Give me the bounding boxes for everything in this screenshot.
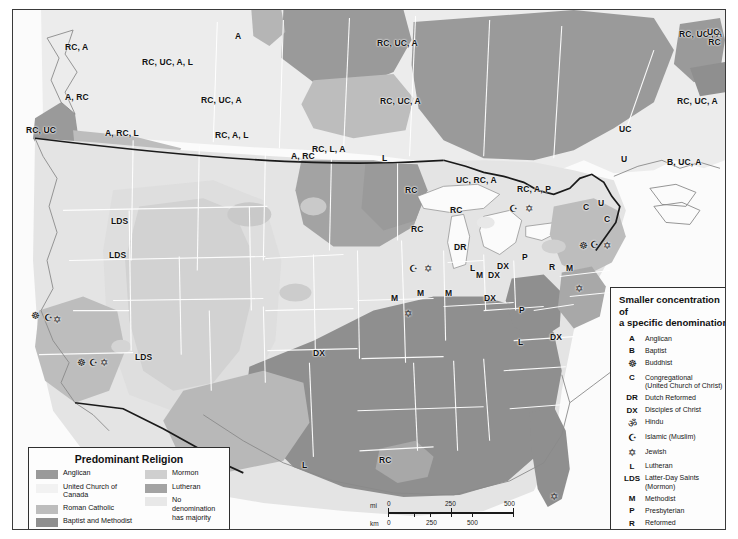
map-label: RC, UC, A <box>377 39 418 49</box>
map-label-line: RC, UC, A <box>201 96 242 106</box>
map-label-line: P <box>522 253 528 263</box>
map-label: RC, A <box>65 43 88 53</box>
denomination-abbreviation: R <box>619 519 645 529</box>
legend-denomination-item: ☸Buddhist <box>619 358 726 371</box>
denomination-abbreviation: A <box>619 334 645 344</box>
denomination-name: Buddhist <box>645 358 672 367</box>
legend-denomination-item: RReformed <box>619 519 726 529</box>
map-label: M <box>476 271 483 281</box>
denomination-name-line: Hindu <box>645 418 663 427</box>
map-label: C <box>583 203 589 213</box>
denomination-name: Anglican <box>645 334 672 343</box>
map-label: M <box>566 264 573 274</box>
map-label-line: DX <box>550 333 562 343</box>
legend-swatch-label-line: Mormon <box>172 469 198 478</box>
map-label-line: A, RC, L <box>105 129 139 139</box>
map-religion-symbol: ☸ <box>31 311 40 321</box>
map-label: L <box>470 264 475 274</box>
legend-denomination-item: ✡Jewish <box>619 447 726 460</box>
map-label-line: U <box>598 199 604 209</box>
denomination-name: Hindu <box>645 418 663 427</box>
map-label-line: M <box>566 264 573 274</box>
denomination-abbreviation: LDS <box>619 474 645 484</box>
map-label-line: DX <box>484 294 496 304</box>
scale-tick-a <box>414 512 415 517</box>
map-label-line: LDS <box>111 217 128 227</box>
map-label-line: RC, A, L <box>215 131 249 141</box>
denomination-name: Disciples of Christ <box>645 406 701 415</box>
patch-3 <box>279 284 311 302</box>
legend-swatch-row: Lutheran <box>145 483 222 493</box>
scale-tick-end <box>513 508 514 517</box>
map-plate: RC, AARC, UC, A, LRC, UC, ARC, UC , AA, … <box>12 9 726 530</box>
legend-swatch-label-line: United Church of Canada <box>63 483 141 501</box>
legend-color-swatch <box>36 470 58 479</box>
map-label: U <box>598 199 604 209</box>
denomination-name-line: Jewish <box>645 448 666 457</box>
map-label-line: RC <box>411 225 423 235</box>
legend-denominations-list: AAnglicanBBaptist☸BuddhistCCongregationa… <box>619 334 726 530</box>
denomination-name: Baptist <box>645 346 666 355</box>
map-label-line: DX <box>313 349 325 359</box>
map-label: RC <box>405 186 417 196</box>
map-label: A, RC, L <box>105 129 139 139</box>
map-label-line: L <box>518 338 523 348</box>
map-label: R <box>549 263 555 273</box>
scale-mi-unit: mi <box>370 502 377 509</box>
legend-denominations-title-line: Smaller concentration of <box>619 294 726 317</box>
legend-swatch-row: No denominationhas majority <box>145 496 222 522</box>
map-label-line: M <box>476 271 483 281</box>
denomination-name-line: Baptist <box>645 347 666 356</box>
map-label-line: LDS <box>109 251 126 261</box>
map-religion-symbol: ☸ <box>579 241 588 251</box>
map-religion-symbol: ☪ <box>590 240 599 250</box>
legend-denomination-item: LDSLatter-Day Saints (Mormon) <box>619 474 726 492</box>
map-label: B, UC, A <box>667 158 702 168</box>
map-label-line: M <box>417 289 424 299</box>
map-label-line: LDS <box>135 353 152 363</box>
denomination-name: Jewish <box>645 447 666 456</box>
denomination-name: Islamic (Muslim) <box>645 432 696 441</box>
legend-swatch-label: No denominationhas majority <box>172 496 222 522</box>
map-label: L <box>302 461 307 471</box>
map-religion-symbol: ✡ <box>550 492 558 502</box>
map-label-line: M <box>445 289 452 299</box>
map-label: RC, UC, A <box>201 96 242 106</box>
denomination-name-line: Lutheran <box>645 462 673 471</box>
map-label-line: RC <box>405 186 417 196</box>
denomination-symbol-icon: ✡ <box>619 447 645 460</box>
legend-predominant-column-2: MormonLutheranNo denominationhas majorit… <box>145 469 222 527</box>
legend-predominant-religion: Predominant Religion AnglicanUnited Chur… <box>28 447 230 530</box>
map-label: P <box>519 306 525 316</box>
map-religion-symbol: ☸ <box>77 358 86 368</box>
denomination-name-line: Islamic (Muslim) <box>645 433 696 442</box>
map-label-line: RC, L, A <box>312 145 346 155</box>
denomination-name: Dutch Reformed <box>645 393 696 402</box>
map-label: RC, UC, A <box>380 97 421 107</box>
scale-km-0: 0 <box>387 519 391 526</box>
denomination-name: Latter-Day Saints (Mormon) <box>645 474 726 492</box>
map-religion-symbol: ✡ <box>575 284 583 294</box>
screenshot-root: RC, AARC, UC, A, LRC, UC, ARC, UC , AA, … <box>0 0 738 539</box>
map-label-line: RC, UC, A <box>380 97 421 107</box>
legend-swatch-label: Mormon <box>172 469 198 478</box>
map-religion-symbol: ✡ <box>53 315 61 325</box>
map-label: RC, UC <box>26 126 56 136</box>
map-label: LDS <box>135 353 152 363</box>
map-religion-symbol: ☪ <box>509 204 518 214</box>
map-religion-symbol: ✡ <box>603 241 611 251</box>
legend-swatch-label-line: Baptist and Methodist <box>63 517 132 526</box>
denomination-name-line: Congregational <box>645 374 722 383</box>
scale-km-250: 250 <box>426 519 437 526</box>
scale-tick-mid <box>451 508 452 517</box>
scale-tick-b <box>430 512 431 517</box>
map-religion-symbol: ✡ <box>525 204 533 214</box>
map-label: RC, L, A <box>312 145 346 155</box>
map-label-line: P <box>519 306 525 316</box>
map-label: A, RC <box>65 93 89 103</box>
patch-4 <box>111 340 131 354</box>
map-label-line: A <box>235 32 241 42</box>
legend-denomination-item: CCongregational(United Church of Christ) <box>619 373 726 391</box>
map-label: M <box>391 294 398 304</box>
denomination-abbreviation: M <box>619 494 645 504</box>
